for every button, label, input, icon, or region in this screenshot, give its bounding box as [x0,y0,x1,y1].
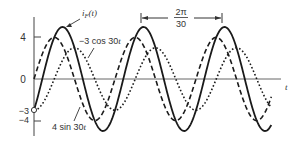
arrowhead-right-icon [215,16,221,20]
ytick-label-0: 0 [20,74,26,85]
arrowhead-left-icon [142,16,148,20]
leader-4sin30t [74,107,80,121]
ytick-label-4: 4 [20,32,26,43]
leader-neg3cos30t [88,48,94,58]
label-iF: iF(t) [82,8,97,19]
period-numerator: 2π [175,7,186,17]
initial-value-marker [31,107,36,112]
x-axis-label: t [285,82,288,92]
chart: 4 0 −3 −4 t 2π 30 iF(t) −3 cos 30t 4 sin… [0,0,296,144]
label-neg3cos30t: −3 cos 30t [79,36,121,46]
leader-iF-arrow-icon [66,23,72,27]
label-4sin30t: 4 sin 30t [52,122,87,132]
ytick-label-neg4: −4 [19,115,29,125]
period-denominator: 30 [176,19,186,29]
